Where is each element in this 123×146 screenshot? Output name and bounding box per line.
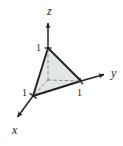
y-axis-tick-label: 1 <box>77 87 82 98</box>
z-axis-tick-label: 1 <box>36 42 41 53</box>
axis-z <box>45 23 52 48</box>
x-axis-line <box>18 96 34 117</box>
axis-y <box>80 75 105 85</box>
z-axis-label: z <box>46 4 52 18</box>
axis-x <box>18 93 37 117</box>
x-axis-tick-label: 1 <box>22 87 27 98</box>
y-axis-line <box>81 75 104 82</box>
x-axis-label: x <box>11 123 18 137</box>
coordinate-system-diagram: z y x 1 1 1 <box>0 0 123 146</box>
y-axis-label: y <box>110 66 117 80</box>
figure-container: z y x 1 1 1 <box>0 0 123 146</box>
